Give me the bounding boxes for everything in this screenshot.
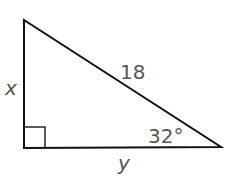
right-triangle [24,20,221,148]
label-x: x [4,76,17,100]
label-angle: 32° [148,124,183,148]
label-y: y [117,151,131,175]
right-angle-marker [24,127,45,148]
label-hypotenuse: 18 [120,60,145,84]
triangle-diagram: x 18 32° y [0,0,248,181]
